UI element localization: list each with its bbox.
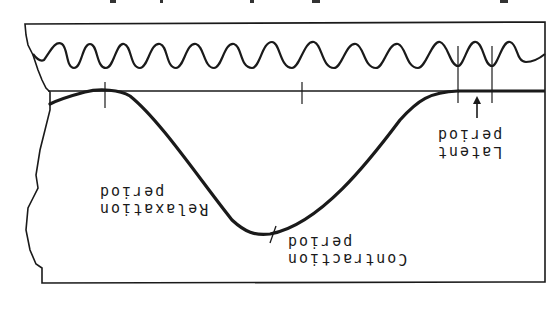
cropped-caption-fragment xyxy=(500,0,508,3)
contraction-period-label: Contraction period xyxy=(286,233,407,267)
contraction-label-line2: period xyxy=(286,233,407,250)
latent-label-line1: Latent xyxy=(436,143,502,160)
cropped-caption-fragment xyxy=(160,0,163,3)
cropped-caption-fragment xyxy=(312,0,320,3)
relaxation-period-label: Relaxation period xyxy=(98,183,208,217)
cropped-caption-fragment xyxy=(250,0,254,3)
timing-wave xyxy=(33,42,545,68)
latent-label-line2: period xyxy=(436,126,502,143)
myogram-figure: Latent period Relaxation period Contract… xyxy=(0,0,558,313)
cropped-caption-fragment xyxy=(110,0,116,3)
contraction-label-line1: Contraction xyxy=(286,250,407,267)
arrowhead-icon xyxy=(473,96,481,104)
relaxation-label-line1: Relaxation xyxy=(98,200,208,217)
relaxation-label-line2: period xyxy=(98,183,208,200)
latent-period-label: Latent period xyxy=(436,126,502,160)
